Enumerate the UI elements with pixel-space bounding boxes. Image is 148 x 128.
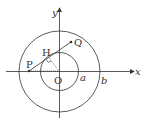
y-axis-label: y	[51, 7, 58, 18]
label-h: H	[42, 47, 51, 58]
x-axis-label: x	[135, 66, 141, 77]
label-origin: O	[54, 75, 62, 86]
label-b: b	[101, 75, 107, 86]
point-p	[28, 70, 31, 73]
label-q: Q	[74, 37, 82, 48]
label-p: P	[26, 59, 33, 70]
point-q	[70, 41, 73, 44]
label-a: a	[80, 72, 86, 83]
coordinate-diagram: y x Q H P O a b	[0, 0, 148, 128]
dotted-segment-oh	[49, 58, 60, 72]
